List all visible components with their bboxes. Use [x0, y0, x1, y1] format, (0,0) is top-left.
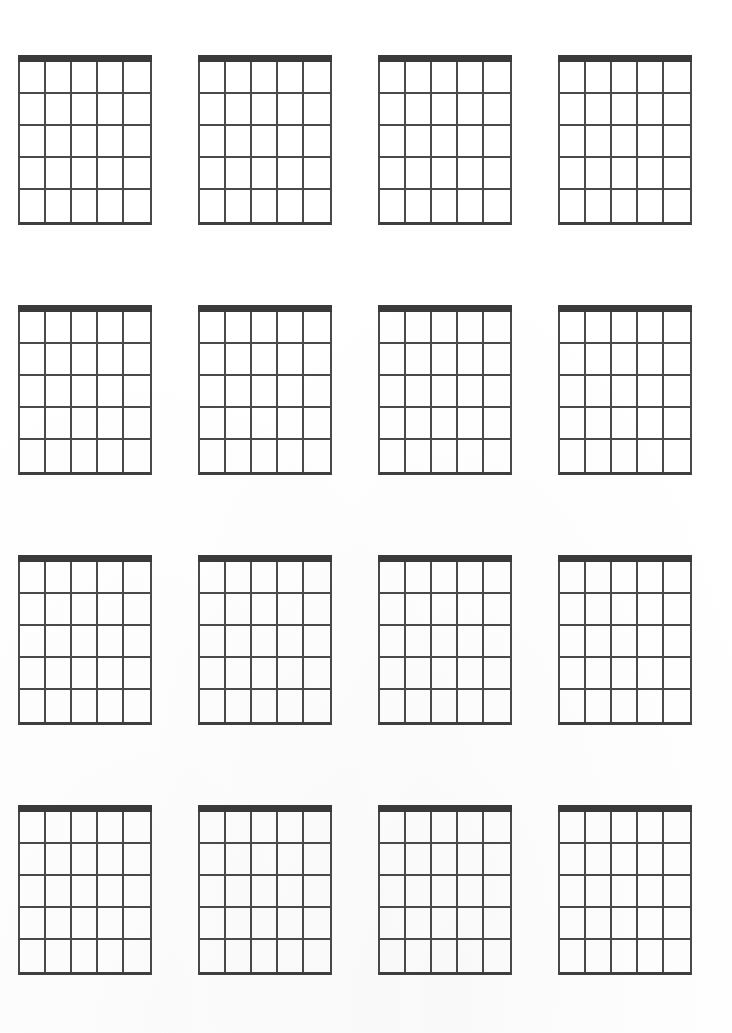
fret-cell[interactable] — [124, 94, 150, 126]
fret-cell[interactable] — [252, 408, 278, 440]
chord-diagram-10[interactable] — [198, 555, 332, 725]
fret-cell[interactable] — [406, 190, 432, 222]
fret-cell[interactable] — [458, 408, 484, 440]
fret-cell[interactable] — [46, 408, 72, 440]
fret-cell[interactable] — [200, 594, 226, 626]
fret-cell[interactable] — [278, 812, 304, 844]
fret-cell[interactable] — [200, 344, 226, 376]
fret-cell[interactable] — [586, 812, 612, 844]
fret-cell[interactable] — [612, 312, 638, 344]
fret-cell[interactable] — [98, 344, 124, 376]
fret-cell[interactable] — [432, 126, 458, 158]
fret-cell[interactable] — [664, 844, 690, 876]
fret-cell[interactable] — [664, 690, 690, 722]
fret-cell[interactable] — [560, 876, 586, 908]
fret-cell[interactable] — [226, 690, 252, 722]
fret-cell[interactable] — [586, 158, 612, 190]
fret-cell[interactable] — [612, 690, 638, 722]
fret-cell[interactable] — [560, 690, 586, 722]
fret-cell[interactable] — [484, 812, 510, 844]
fret-cell[interactable] — [560, 158, 586, 190]
fret-cell[interactable] — [278, 940, 304, 972]
fret-cell[interactable] — [612, 440, 638, 472]
fret-cell[interactable] — [278, 876, 304, 908]
fret-cell[interactable] — [124, 844, 150, 876]
fret-cell[interactable] — [380, 408, 406, 440]
fret-cell[interactable] — [72, 626, 98, 658]
fret-cell[interactable] — [200, 440, 226, 472]
fret-cell[interactable] — [278, 440, 304, 472]
fret-cell[interactable] — [304, 908, 330, 940]
fret-cell[interactable] — [484, 658, 510, 690]
fret-cell[interactable] — [252, 876, 278, 908]
fret-cell[interactable] — [98, 408, 124, 440]
fret-cell[interactable] — [98, 62, 124, 94]
fret-cell[interactable] — [612, 344, 638, 376]
fret-cell[interactable] — [124, 126, 150, 158]
fret-cell[interactable] — [124, 158, 150, 190]
chord-diagram-13[interactable] — [18, 805, 152, 975]
fret-cell[interactable] — [380, 626, 406, 658]
chord-diagram-16[interactable] — [558, 805, 692, 975]
fret-cell[interactable] — [226, 408, 252, 440]
fret-cell[interactable] — [432, 408, 458, 440]
fret-cell[interactable] — [638, 594, 664, 626]
fret-cell[interactable] — [586, 594, 612, 626]
fret-cell[interactable] — [46, 312, 72, 344]
fret-cell[interactable] — [484, 158, 510, 190]
fret-cell[interactable] — [458, 594, 484, 626]
fret-cell[interactable] — [200, 876, 226, 908]
fret-cell[interactable] — [98, 844, 124, 876]
fret-cell[interactable] — [200, 626, 226, 658]
chord-diagram-6[interactable] — [198, 305, 332, 475]
fret-cell[interactable] — [586, 62, 612, 94]
fret-cell[interactable] — [406, 408, 432, 440]
fret-cell[interactable] — [124, 594, 150, 626]
fret-cell[interactable] — [278, 126, 304, 158]
fret-cell[interactable] — [458, 908, 484, 940]
fret-cell[interactable] — [380, 562, 406, 594]
fret-cell[interactable] — [46, 626, 72, 658]
fret-cell[interactable] — [612, 126, 638, 158]
fret-cell[interactable] — [98, 190, 124, 222]
fret-cell[interactable] — [664, 376, 690, 408]
fret-cell[interactable] — [380, 62, 406, 94]
fret-cell[interactable] — [432, 658, 458, 690]
fret-cell[interactable] — [406, 812, 432, 844]
fret-cell[interactable] — [278, 562, 304, 594]
fret-cell[interactable] — [98, 562, 124, 594]
fret-cell[interactable] — [586, 844, 612, 876]
fret-cell[interactable] — [20, 94, 46, 126]
fret-cell[interactable] — [20, 844, 46, 876]
fret-cell[interactable] — [406, 94, 432, 126]
fret-cell[interactable] — [98, 812, 124, 844]
fret-cell[interactable] — [124, 408, 150, 440]
fret-cell[interactable] — [304, 690, 330, 722]
fret-cell[interactable] — [72, 62, 98, 94]
fret-cell[interactable] — [252, 940, 278, 972]
fret-cell[interactable] — [484, 62, 510, 94]
fret-cell[interactable] — [278, 312, 304, 344]
fret-cell[interactable] — [304, 376, 330, 408]
fret-cell[interactable] — [432, 594, 458, 626]
fret-cell[interactable] — [406, 658, 432, 690]
fret-cell[interactable] — [20, 812, 46, 844]
fret-cell[interactable] — [458, 876, 484, 908]
fret-cell[interactable] — [278, 658, 304, 690]
fret-cell[interactable] — [278, 62, 304, 94]
fret-cell[interactable] — [226, 126, 252, 158]
fret-cell[interactable] — [252, 440, 278, 472]
fret-cell[interactable] — [458, 658, 484, 690]
fret-cell[interactable] — [20, 190, 46, 222]
fret-cell[interactable] — [612, 408, 638, 440]
fret-cell[interactable] — [20, 376, 46, 408]
fret-cell[interactable] — [638, 158, 664, 190]
fret-cell[interactable] — [406, 594, 432, 626]
fret-cell[interactable] — [560, 376, 586, 408]
fret-cell[interactable] — [98, 940, 124, 972]
fret-cell[interactable] — [20, 440, 46, 472]
fret-cell[interactable] — [638, 562, 664, 594]
fret-cell[interactable] — [638, 658, 664, 690]
fret-cell[interactable] — [612, 158, 638, 190]
fret-cell[interactable] — [200, 94, 226, 126]
